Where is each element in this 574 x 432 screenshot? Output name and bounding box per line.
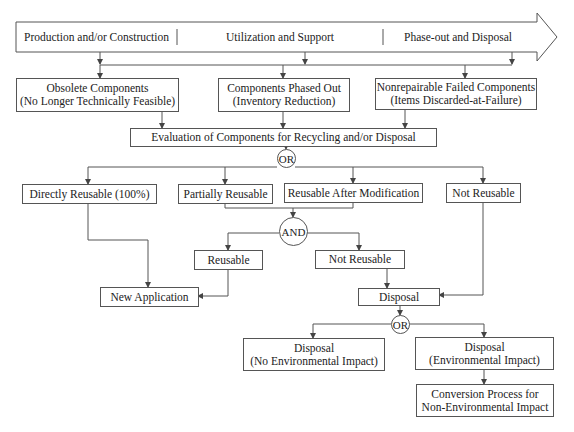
phased-out-components-box: Components Phased Out (Inventory Reducti… — [218, 78, 350, 112]
box-subtitle: (Environmental Impact) — [429, 354, 540, 367]
not-reusable-box: Not Reusable — [446, 183, 521, 203]
conversion-process-box: Conversion Process for Non-Environmental… — [416, 384, 554, 417]
box-title: Components Phased Out — [227, 82, 341, 95]
phase-label: Utilization and Support — [226, 31, 334, 43]
box-subtitle: (No Longer Technically Feasible) — [20, 95, 175, 108]
not-reusable-modified-box: Not Reusable — [315, 250, 405, 269]
box-title: New Application — [110, 291, 188, 304]
reusable-box: Reusable — [194, 250, 263, 270]
phase-utilization: Utilization and Support — [177, 22, 383, 52]
disposal-box: Disposal — [358, 288, 440, 306]
box-title: Reusable — [207, 254, 249, 267]
partially-reusable-box: Partially Reusable — [178, 184, 273, 204]
box-title: Not Reusable — [452, 187, 514, 200]
evaluation-box: Evaluation of Components for Recycling a… — [130, 128, 437, 147]
box-title: Not Reusable — [329, 253, 391, 266]
directly-reusable-box: Directly Reusable (100%) — [22, 184, 157, 204]
or-gate-1: OR — [277, 149, 296, 168]
phase-phaseout: Phase-out and Disposal — [383, 22, 533, 52]
obsolete-components-box: Obsolete Components (No Longer Technical… — [16, 78, 179, 112]
box-title: Directly Reusable (100%) — [29, 188, 149, 201]
box-title: Conversion Process for — [431, 388, 538, 401]
box-title: Nonrepairable Failed Components — [377, 81, 535, 94]
or-gate-2: OR — [391, 315, 410, 334]
and-gate: AND — [279, 217, 308, 246]
box-subtitle: (Inventory Reduction) — [233, 95, 336, 108]
box-title: Partially Reusable — [184, 188, 268, 201]
gate-label: OR — [393, 319, 408, 331]
phase-production: Production and/or Construction — [16, 22, 177, 52]
box-title: Disposal — [294, 342, 334, 355]
box-title: Obsolete Components — [47, 82, 149, 95]
box-title: Evaluation of Components for Recycling a… — [151, 131, 415, 144]
nonrepairable-components-box: Nonrepairable Failed Components (Items D… — [375, 78, 537, 110]
reusable-after-modification-box: Reusable After Modification — [284, 183, 423, 203]
box-subtitle: (Items Discarded-at-Failure) — [390, 94, 521, 107]
box-title: Disposal — [464, 341, 504, 354]
box-title: Disposal — [379, 291, 419, 304]
phase-label: Production and/or Construction — [24, 31, 169, 43]
disposal-no-environmental-impact-box: Disposal (No Environmental Impact) — [243, 338, 385, 371]
box-title: Reusable After Modification — [288, 187, 420, 200]
gate-label: AND — [282, 226, 306, 238]
disposal-environmental-impact-box: Disposal (Environmental Impact) — [415, 337, 554, 370]
box-subtitle: (No Environmental Impact) — [250, 355, 378, 368]
new-application-box: New Application — [100, 287, 199, 307]
phase-label: Phase-out and Disposal — [404, 31, 512, 43]
box-subtitle: Non-Environmental Impact — [422, 401, 549, 414]
gate-label: OR — [279, 153, 294, 165]
